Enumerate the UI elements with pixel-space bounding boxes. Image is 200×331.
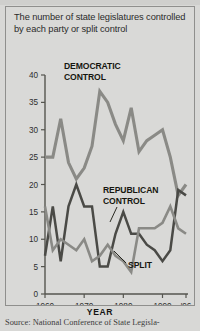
annotation-split: SPLIT [128, 260, 153, 270]
y-axis-tick-label: 5 [33, 263, 38, 272]
annotation-democratic-line2: CONTROL [64, 72, 106, 82]
x-axis-tick-label: 1980 [114, 302, 133, 305]
y-axis-tick-label: 40 [29, 71, 39, 80]
x-axis-title: YEAR [0, 307, 200, 317]
y-axis-tick-label: 35 [29, 98, 39, 107]
x-axis-tick-label: 1970 [75, 302, 94, 305]
line-chart-svg: 05101520253035401960197019801990'96 DEMO… [6, 57, 194, 305]
y-axis-tick-label: 20 [29, 181, 39, 190]
y-axis-tick-label: 30 [29, 126, 39, 135]
chart-series [45, 91, 186, 272]
top-strip [0, 0, 200, 5]
chart-card: The number of state legislatures control… [5, 6, 195, 306]
x-axis-tick-label: 1960 [36, 302, 55, 305]
chart-headline: The number of state legislatures control… [14, 12, 186, 35]
source-caption: Source: National Conference of State Leg… [5, 318, 200, 327]
y-axis-tick-label: 10 [29, 235, 39, 244]
annotation-democratic-line1: DEMOCRATIC [64, 61, 121, 71]
republican-leader-line [110, 207, 117, 222]
x-axis-tick-label: 1990 [153, 302, 172, 305]
plot-area: 05101520253035401960197019801990'96 DEMO… [6, 57, 194, 305]
y-axis-tick-label: 25 [29, 153, 39, 162]
y-axis-tick-label: 0 [33, 290, 38, 299]
x-axis-tick-label: '96 [181, 302, 192, 305]
series-line-democratic-control [45, 91, 186, 195]
y-axis-tick-label: 15 [29, 208, 39, 217]
annotation-republican-line1: REPUBLICAN [103, 185, 158, 195]
annotation-republican-line2: CONTROL [103, 196, 145, 206]
